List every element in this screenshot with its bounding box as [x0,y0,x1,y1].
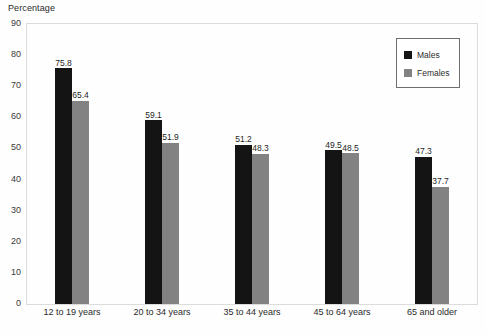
y-axis: 9080706050403020100 [0,23,24,305]
bar-males[interactable]: 59.1 [145,120,162,304]
bar-value-label: 51.2 [235,135,252,144]
bar-value-label: 47.3 [415,147,432,156]
x-axis-label: 20 to 34 years [133,308,190,317]
bar-females[interactable]: 48.5 [342,153,359,304]
bar-group: 75.865.4 [55,24,89,304]
bar-group: 49.548.5 [325,24,359,304]
bar-value-label: 49.5 [325,141,342,150]
bar-value-label: 48.5 [342,144,359,153]
bar-females[interactable]: 48.3 [252,154,269,304]
bar-value-label: 75.8 [55,59,72,68]
legend-swatch-females-icon [404,69,412,77]
y-axis-title: Percentage [8,3,55,13]
x-axis-label: 65 and older [407,308,457,317]
y-axis-tick-30: 30 [11,205,21,214]
y-axis-tick-20: 20 [11,236,21,245]
y-axis-tick-90: 90 [11,19,21,28]
legend-swatch-males-icon [404,51,412,59]
y-axis-tick-70: 70 [11,81,21,90]
bar-males[interactable]: 51.2 [235,145,252,304]
bar-females[interactable]: 65.4 [72,101,89,304]
y-axis-tick-40: 40 [11,174,21,183]
bar-value-label: 37.7 [432,177,449,186]
bar-males[interactable]: 75.8 [55,68,72,304]
bar-group: 59.151.9 [145,24,179,304]
legend-item-females[interactable]: Females [404,64,459,82]
bar-value-label: 59.1 [145,111,162,120]
bar-females[interactable]: 51.9 [162,143,179,304]
y-axis-tick-80: 80 [11,50,21,59]
y-axis-tick-50: 50 [11,143,21,152]
bar-value-label: 51.9 [162,133,179,142]
legend-item-males[interactable]: Males [404,46,459,64]
y-axis-tick-60: 60 [11,112,21,121]
bar-chart: Percentage 9080706050403020100 75.865.45… [0,0,486,335]
bar-value-label: 65.4 [72,91,89,100]
legend: Males Females [396,38,460,88]
bar-females[interactable]: 37.7 [432,187,449,304]
bar-group: 51.248.3 [235,24,269,304]
bar-males[interactable]: 47.3 [415,157,432,304]
bar-value-label: 48.3 [252,144,269,153]
y-axis-tick-10: 10 [11,267,21,276]
x-axis-label: 12 to 19 years [43,308,100,317]
x-axis-label: 45 to 64 years [313,308,370,317]
legend-label-males: Males [417,51,440,60]
legend-label-females: Females [417,69,450,78]
y-axis-tick-0: 0 [16,299,21,308]
bar-males[interactable]: 49.5 [325,150,342,304]
x-axis: 12 to 19 years20 to 34 years35 to 44 yea… [27,308,477,330]
x-axis-label: 35 to 44 years [223,308,280,317]
